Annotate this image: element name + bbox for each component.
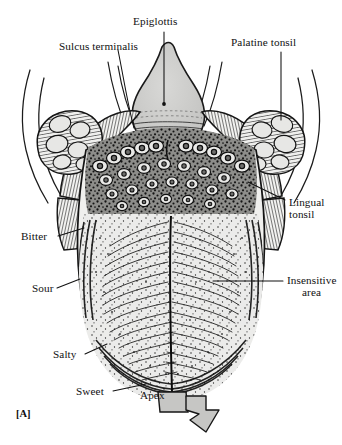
panel-identifier: [A] — [16, 408, 31, 419]
label-apex: Apex — [140, 389, 165, 401]
tongue-illustration — [0, 0, 342, 445]
tongue-anatomy-figure: Epiglottis Sulcus terminalis Palatine to… — [0, 0, 342, 445]
label-palatine-tonsil: Palatine tonsil — [231, 36, 296, 48]
label-lingual-tonsil-line1: Lingual — [289, 196, 325, 208]
label-lingual-tonsil-line2: tonsil — [289, 208, 314, 220]
label-sulcus-terminalis: Sulcus terminalis — [59, 40, 138, 52]
label-salty: Salty — [53, 348, 77, 360]
label-bitter: Bitter — [21, 230, 47, 242]
label-epiglottis: Epiglottis — [133, 15, 178, 27]
lingual-tonsil-follicles — [80, 126, 262, 218]
label-sour: Sour — [32, 282, 54, 294]
label-sweet: Sweet — [76, 385, 104, 397]
label-insensitive-line2: area — [302, 286, 321, 298]
label-insensitive-line1: Insensitive — [287, 274, 337, 286]
